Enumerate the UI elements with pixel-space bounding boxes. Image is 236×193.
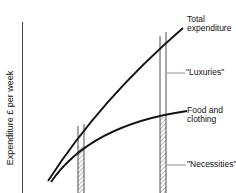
label-necessities: "Necessities" xyxy=(187,160,236,169)
label-food-and-clothing: Food and clothing xyxy=(187,106,223,124)
label-luxuries: "Luxuries" xyxy=(186,68,224,77)
label-total-expenditure: Total expenditure xyxy=(187,15,231,33)
label-line: clothing xyxy=(187,115,223,124)
label-line: expenditure xyxy=(187,24,231,33)
bar-right xyxy=(160,32,166,193)
y-axis-label: Expenditure £ per week xyxy=(5,71,15,166)
